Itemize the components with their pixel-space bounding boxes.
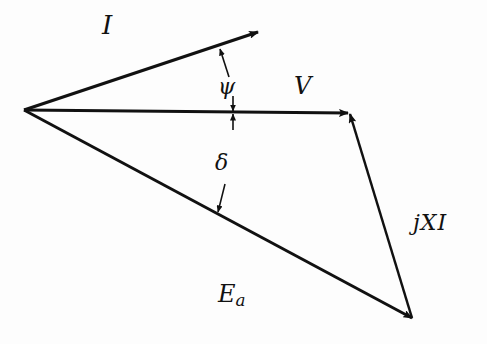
phasor-v-label: V bbox=[294, 74, 311, 98]
psi-angle-label: ψ bbox=[218, 76, 235, 98]
phasor-diagram: I V ψ δ jXI Ea bbox=[0, 0, 487, 344]
phasor-v-line bbox=[24, 110, 348, 113]
phasor-jxi-label: jXI bbox=[413, 212, 447, 234]
phasor-ea-label-sub: a bbox=[236, 290, 246, 310]
delta-angle-label: δ bbox=[215, 152, 228, 174]
phasor-jxi-line bbox=[350, 114, 412, 318]
phasor-i-label: I bbox=[102, 12, 112, 38]
phasor-ea-label-main: E bbox=[218, 280, 236, 308]
psi-angle-arrow bbox=[220, 49, 229, 77]
delta-angle-arrow bbox=[218, 184, 225, 212]
phasor-ea-label: Ea bbox=[218, 282, 246, 309]
